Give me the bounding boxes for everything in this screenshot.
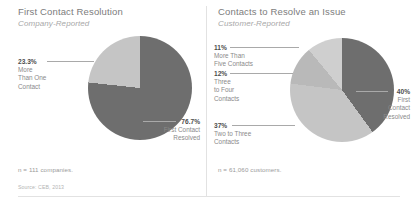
slice-value-first-contact-resolved: 40% — [342, 88, 410, 96]
infographic-sheet: First Contact Resolution Company-Reporte… — [0, 0, 418, 206]
sample-size-note-right: n = 61,060 customers. — [218, 166, 282, 173]
panel-first-contact-resolution: First Contact Resolution Company-Reporte… — [0, 0, 205, 206]
sample-size-note-left: n = 111 companies. — [18, 166, 73, 173]
slice-name-line-1: Three — [214, 78, 231, 85]
slice-name-line-3: Contacts — [214, 95, 239, 102]
page-subtitle-right: Customer-Reported — [218, 19, 290, 28]
slice-name-line-2: Resolved — [173, 134, 200, 141]
slice-name-line-1: More — [18, 66, 33, 73]
slice-value-first-contact-resolved: 76.7% — [128, 118, 200, 126]
leader-line-right-first — [356, 91, 388, 92]
panel-contacts-to-resolve-an-issue: Contacts to Resolve an Issue Customer-Re… — [208, 0, 418, 206]
slice-name-line-1: More Than — [214, 52, 245, 59]
slice-value-three-to-four-contacts: 12% — [214, 70, 274, 78]
slice-name-line-2: Contacts — [214, 138, 239, 145]
leader-line-left-upper — [47, 61, 94, 62]
slice-name-line-2: Than One — [18, 74, 46, 81]
slice-name-line-1: First — [398, 96, 410, 103]
leader-line-right-five — [230, 47, 299, 48]
slice-name-line-2: to Four — [214, 86, 234, 93]
page-title-left: First Contact Resolution — [18, 6, 123, 17]
slice-label-first-contact-resolved: 40% First Contact Resolved — [342, 88, 410, 121]
slice-label-more-than-one-contact: 23.3% More Than One Contact — [18, 58, 80, 91]
slice-name-line-1: Two to Three — [214, 130, 251, 137]
source-note: Source: CEB, 2013 — [18, 184, 64, 190]
slice-value-more-than-one-contact: 23.3% — [18, 58, 80, 66]
slice-name-line-2: Contact — [388, 104, 410, 111]
slice-name-line-3: Resolved — [383, 113, 410, 120]
leader-line-right-threefour — [230, 73, 293, 74]
slice-name-line-3: Contact — [18, 83, 40, 90]
page-title-right: Contacts to Resolve an Issue — [218, 6, 346, 17]
slice-value-more-than-five-contacts: 11% — [214, 44, 278, 52]
page-subtitle-left: Company-Reported — [18, 19, 89, 28]
slice-value-two-to-three-contacts: 37% — [214, 122, 286, 130]
panel-divider — [206, 6, 207, 196]
slice-label-three-to-four-contacts: 12% Three to Four Contacts — [214, 70, 274, 103]
leader-line-left-lower — [143, 121, 176, 122]
slice-name-line-2: Five Contacts — [214, 60, 253, 67]
slice-name-line-1: First Contact — [164, 126, 200, 133]
leader-line-right-twothree — [232, 125, 295, 126]
